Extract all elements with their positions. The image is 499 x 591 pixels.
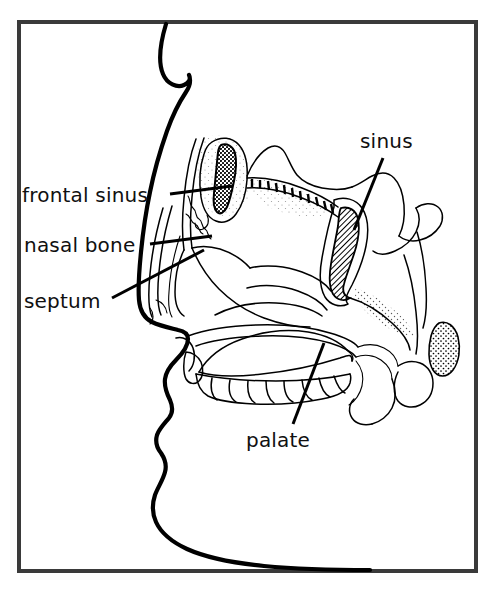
label-sinus: sinus — [360, 129, 413, 153]
tongue — [199, 331, 353, 376]
adenoid-mass — [429, 322, 459, 376]
soft-palate — [349, 361, 433, 425]
pharynx-wall — [350, 232, 426, 354]
label-nasal-bone: nasal bone — [24, 233, 135, 257]
label-palate: palate — [246, 428, 310, 452]
leader-nasal-bone — [150, 236, 212, 244]
anatomy-illustration: frontal sinus nasal bone septum sinus pa… — [0, 0, 499, 591]
leader-sinus — [354, 158, 383, 230]
nasal-cavity — [175, 247, 331, 327]
label-septum: septum — [24, 289, 101, 313]
anatomy-figure: frontal sinus nasal bone septum sinus pa… — [0, 0, 499, 591]
label-frontal-sinus: frontal sinus — [22, 183, 148, 207]
